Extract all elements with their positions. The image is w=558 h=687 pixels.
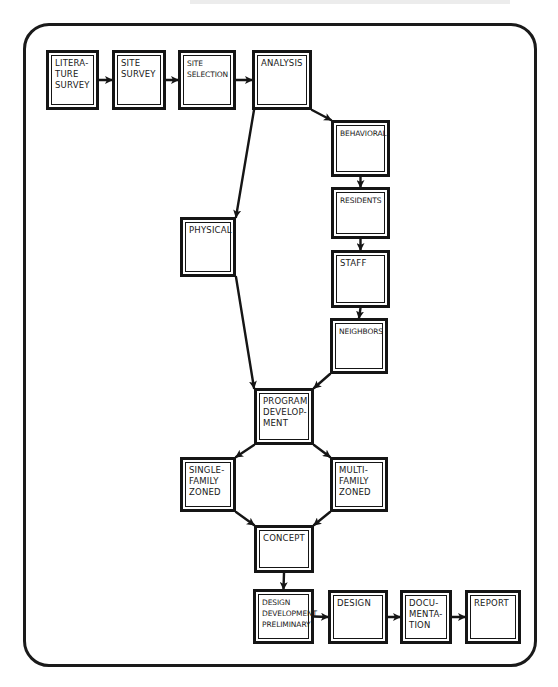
node-label: Design: [337, 598, 380, 609]
node-label: Analysis: [261, 58, 304, 69]
node-design: Design: [328, 590, 388, 644]
node-label: Site Selection: [187, 58, 228, 80]
node-literature-survey: Litera- ture Survey: [46, 50, 99, 110]
node-label: Site Survey: [121, 58, 158, 80]
node-label: Physical: [189, 225, 228, 236]
node-label: Litera- ture Survey: [55, 58, 91, 91]
node-design-development-preliminary: Design Development Preliminary: [253, 589, 314, 644]
node-single-family-zoned: Single- Family Zoned: [180, 457, 236, 512]
top-scan-strip: [190, 0, 510, 4]
node-neighbors: Neighbors: [330, 318, 388, 374]
node-label: Staff: [340, 258, 382, 269]
node-site-survey: Site Survey: [112, 50, 166, 110]
node-documentation: Docu- menta- tion: [400, 590, 452, 644]
node-label: Multi- Family Zoned: [339, 465, 380, 498]
node-analysis: Analysis: [252, 50, 312, 110]
node-behavioral: Behavioral: [331, 120, 390, 177]
node-concept: Concept: [254, 525, 314, 573]
node-residents: Residents: [331, 187, 390, 239]
node-physical: Physical: [180, 217, 236, 277]
node-site-selection: Site Selection: [178, 50, 236, 110]
node-label: Residents: [340, 195, 382, 206]
node-label: Report: [474, 598, 513, 609]
node-label: Design Development Preliminary: [262, 597, 306, 630]
node-label: Single- Family Zoned: [189, 465, 228, 498]
node-multi-family-zoned: Multi- Family Zoned: [330, 457, 388, 512]
node-label: Program Develop- ment: [263, 396, 306, 429]
node-label: Behavioral: [340, 128, 382, 139]
node-staff: Staff: [331, 250, 390, 308]
node-program-development: Program Develop- ment: [254, 388, 314, 445]
node-report: Report: [465, 590, 521, 644]
node-label: Concept: [263, 533, 306, 544]
node-label: Docu- menta- tion: [409, 598, 444, 631]
node-label: Neighbors: [339, 326, 380, 337]
